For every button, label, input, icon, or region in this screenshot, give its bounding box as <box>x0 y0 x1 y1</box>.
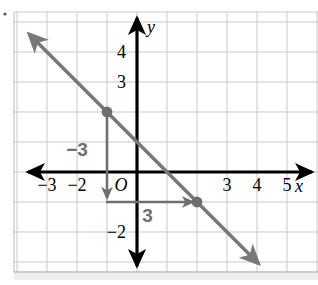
graph-figure: −3−2345O43−2yx−33 <box>0 0 318 285</box>
y-tick-label: 4 <box>117 42 126 62</box>
y-tick-label: −2 <box>107 222 126 242</box>
page-artifact-dot <box>3 12 6 15</box>
origin-label: O <box>115 175 128 195</box>
run-label: 3 <box>142 205 153 226</box>
x-axis-label: x <box>294 176 303 196</box>
x-tick-label: −2 <box>67 175 86 195</box>
x-tick-label: 5 <box>283 175 292 195</box>
x-tick-label: 3 <box>223 175 232 195</box>
y-tick-label: 3 <box>117 72 126 92</box>
rise-label: −3 <box>66 139 88 160</box>
x-tick-label: −3 <box>37 175 56 195</box>
data-point <box>192 197 203 208</box>
paper-shadow <box>14 273 318 280</box>
coordinate-plane-svg: −3−2345O43−2yx−33 <box>0 0 318 285</box>
y-axis-label: y <box>145 17 155 37</box>
x-tick-label: 4 <box>253 175 262 195</box>
data-point <box>102 107 113 118</box>
